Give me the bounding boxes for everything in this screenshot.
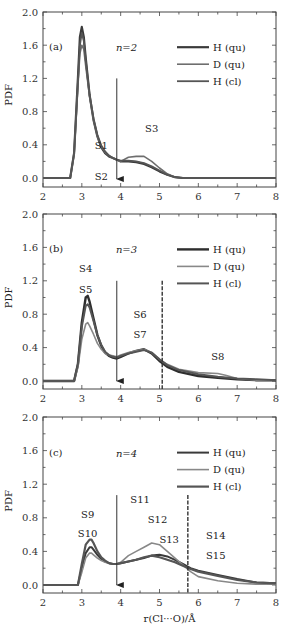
x-tick-label: 8 [273, 191, 279, 202]
y-axis-label: PDF [3, 287, 14, 309]
y-tick-label: 0.4 [22, 139, 38, 150]
y-tick-label: 1.2 [22, 479, 38, 490]
y-tick-label: 0.8 [22, 309, 38, 320]
x-tick-label: 4 [117, 191, 123, 202]
x-axis-label: r(Cl···O)/Å [144, 613, 197, 624]
region-label: S5 [79, 284, 92, 295]
region-label: S6 [133, 309, 146, 320]
legend-entry: H (qu) [213, 447, 246, 458]
y-tick-label: 1.6 [22, 445, 38, 456]
region-label: S7 [133, 329, 146, 340]
x-tick-label: 2 [40, 597, 46, 608]
series-line-dqu [43, 543, 276, 585]
legend-entry: D (qu) [213, 464, 245, 475]
y-axis-label: PDF [3, 490, 14, 512]
pdf-chart-figure: 23456780.00.40.81.21.62.0PDF(a)n=2S1S2S3… [0, 0, 286, 627]
legend: H (qu)D (qu)H (cl) [177, 244, 246, 289]
y-axis-label: PDF [3, 84, 14, 106]
x-tick-label: 7 [234, 191, 240, 202]
x-tick-label: 5 [156, 393, 162, 404]
x-tick-label: 8 [273, 393, 279, 404]
y-tick-label: 0.4 [22, 546, 38, 557]
region-label: S2 [95, 171, 108, 182]
x-tick-label: 2 [40, 393, 46, 404]
region-label: S12 [148, 514, 168, 525]
n-annotation: n=4 [116, 448, 137, 459]
x-tick-label: 3 [79, 191, 85, 202]
region-label: S1 [95, 140, 108, 151]
region-label: S4 [79, 263, 92, 274]
panel-a: 23456780.00.40.81.21.62.0PDF(a)n=2S1S2S3… [3, 7, 279, 203]
x-tick-label: 6 [195, 393, 201, 404]
y-tick-label: 0.8 [22, 106, 38, 117]
y-tick-label: 2.0 [22, 412, 38, 423]
x-tick-label: 3 [79, 393, 85, 404]
legend-entry: H (cl) [213, 76, 242, 87]
series-line-hcl [43, 540, 276, 585]
legend-entry: D (qu) [213, 59, 245, 70]
x-tick-label: 5 [156, 191, 162, 202]
n-annotation: n=3 [116, 244, 137, 255]
x-tick-label: 8 [273, 597, 279, 608]
region-label: S15 [206, 550, 226, 561]
legend: H (qu)D (qu)H (cl) [177, 42, 246, 87]
legend-entry: H (cl) [213, 481, 242, 492]
panel-label: (b) [49, 243, 63, 254]
y-tick-label: 0.8 [22, 512, 38, 523]
y-tick-label: 1.2 [22, 275, 38, 286]
x-tick-label: 2 [40, 191, 46, 202]
panel-label: (a) [49, 41, 63, 52]
panel-c: 23456780.00.40.81.21.62.0PDFr(Cl···O)/Å(… [3, 412, 279, 625]
region-label: S13 [159, 534, 179, 545]
y-tick-label: 0.0 [22, 376, 38, 387]
x-tick-label: 7 [234, 597, 240, 608]
region-label: S3 [145, 123, 158, 134]
legend: H (qu)D (qu)H (cl) [177, 447, 246, 492]
panel-label: (c) [49, 447, 63, 458]
region-label: S8 [211, 351, 224, 362]
legend-entry: H (qu) [213, 244, 246, 255]
x-tick-label: 3 [79, 597, 85, 608]
y-tick-label: 0.4 [22, 342, 38, 353]
y-tick-label: 0.0 [22, 580, 38, 591]
y-tick-label: 0.0 [22, 173, 38, 184]
legend-entry: D (qu) [213, 261, 245, 272]
x-tick-label: 5 [156, 597, 162, 608]
y-tick-label: 2.0 [22, 209, 38, 220]
y-tick-label: 2.0 [22, 7, 38, 18]
n-annotation: n=2 [116, 42, 137, 53]
region-label: S9 [81, 509, 94, 520]
plot-frame [43, 417, 276, 593]
region-label: S14 [206, 530, 226, 541]
region-label: S11 [130, 494, 150, 505]
x-tick-label: 7 [234, 393, 240, 404]
x-tick-label: 4 [117, 597, 123, 608]
x-tick-label: 6 [195, 191, 201, 202]
x-tick-label: 4 [117, 393, 123, 404]
y-tick-label: 1.6 [22, 40, 38, 51]
legend-entry: H (qu) [213, 42, 246, 53]
y-tick-label: 1.2 [22, 73, 38, 84]
panel-b: 23456780.00.40.81.21.62.0PDF(b)n=3S4S5S6… [3, 209, 279, 405]
x-tick-label: 6 [195, 597, 201, 608]
legend-entry: H (cl) [213, 278, 242, 289]
y-tick-label: 1.6 [22, 242, 38, 253]
region-label: S10 [78, 528, 98, 539]
